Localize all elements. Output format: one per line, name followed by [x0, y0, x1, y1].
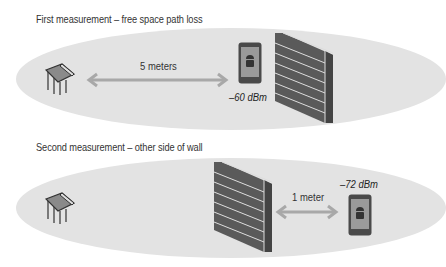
phone-icon: [348, 194, 372, 236]
brick-wall-icon: [214, 162, 272, 252]
signal-strength: –60 dBm: [229, 91, 267, 103]
double-arrow: [85, 73, 230, 87]
phone-icon: [238, 42, 262, 84]
panel-caption: Second measurement – other side of wall: [36, 141, 203, 153]
signal-strength: –72 dBm: [340, 178, 378, 190]
room-ellipse: [16, 28, 446, 130]
brick-wall-icon: [275, 33, 333, 123]
distance-label: 1 meter: [292, 191, 324, 203]
double-arrow: [274, 205, 340, 219]
panel-caption: First measurement – free space path loss: [36, 13, 202, 25]
router-icon: [40, 60, 80, 100]
distance-label: 5 meters: [140, 60, 177, 72]
router-icon: [40, 189, 80, 229]
